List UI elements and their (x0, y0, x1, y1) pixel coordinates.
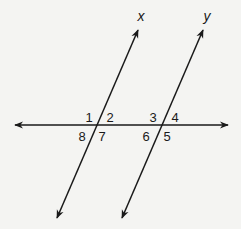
angle-label-2: 2 (106, 111, 113, 124)
angle-label-5: 5 (163, 130, 170, 143)
angle-label-6: 6 (142, 130, 149, 143)
line-x (57, 30, 138, 218)
line-label-x: x (138, 9, 145, 23)
angle-label-4: 4 (171, 111, 178, 124)
parallel-lines-diagram (0, 0, 241, 229)
angle-label-1: 1 (85, 111, 92, 124)
line-label-y: y (204, 9, 211, 23)
angle-label-7: 7 (98, 130, 105, 143)
angle-label-8: 8 (78, 130, 85, 143)
line-y (122, 30, 203, 218)
angle-label-3: 3 (149, 111, 156, 124)
